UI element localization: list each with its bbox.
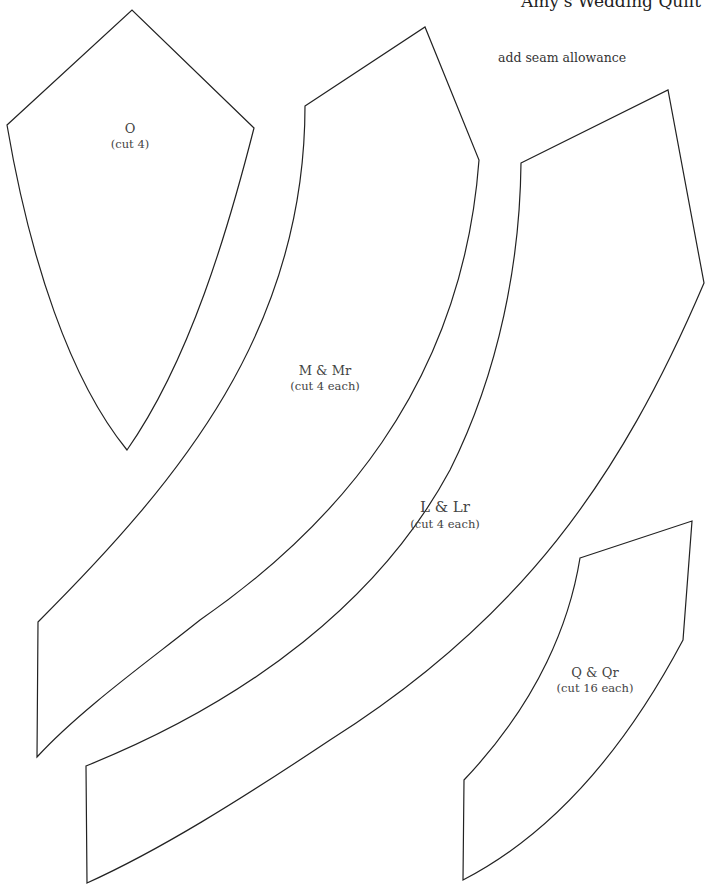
cut-count: (cut 4 each) <box>265 379 385 393</box>
cut-count: (cut 4 each) <box>380 517 510 531</box>
piece-l-label: L & Lr (cut 4 each) <box>380 498 510 531</box>
piece-name: M & Mr <box>265 363 385 379</box>
piece-m-label: M & Mr (cut 4 each) <box>265 363 385 394</box>
cut-count: (cut 4) <box>90 137 170 151</box>
piece-o-label: O (cut 4) <box>90 121 170 152</box>
piece-name: Q & Qr <box>540 665 650 681</box>
piece-l-outline <box>86 90 704 883</box>
piece-o-outline <box>7 10 254 450</box>
piece-q-label: Q & Qr (cut 16 each) <box>540 665 650 696</box>
piece-name: O <box>90 121 170 137</box>
piece-q-outline <box>463 521 692 880</box>
piece-name: L & Lr <box>380 498 510 517</box>
cut-count: (cut 16 each) <box>540 681 650 695</box>
